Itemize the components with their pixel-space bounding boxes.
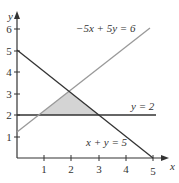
y-tick-label: 4	[6, 66, 12, 78]
equation-label-y2: y = 2	[130, 100, 155, 112]
shaded-region	[39, 91, 99, 115]
y-tick-label: 1	[6, 131, 12, 143]
x-axis-arrow-icon	[161, 155, 169, 161]
y-axis-label: y	[7, 10, 13, 22]
x-tick-label: 4	[123, 163, 129, 175]
line-neg5x-plus-5y-equals-6	[17, 28, 150, 132]
y-axis-arrow-icon	[14, 11, 20, 19]
x-tick-label: 2	[68, 163, 74, 175]
equation-label-gray: −5x + 5y = 6	[76, 22, 136, 34]
x-tick-label: 3	[96, 163, 102, 175]
equation-label-black: x + y = 5	[85, 136, 128, 148]
y-tick-label: 2	[6, 109, 12, 121]
y-tick-label: 6	[6, 23, 12, 35]
chart: 1 2 3 4 5 1 2 3 4 5 6 y x −5x + 5y = 6 y…	[0, 0, 179, 183]
x-tick-label: 1	[41, 163, 47, 175]
y-tick-label: 3	[6, 88, 12, 100]
x-axis-label: x	[169, 160, 175, 172]
y-tick-label: 5	[6, 45, 12, 57]
x-tick-label: 5	[150, 165, 156, 177]
